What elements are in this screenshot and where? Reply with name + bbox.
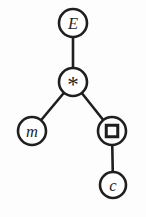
node-c-label: c bbox=[109, 176, 117, 195]
node-star-label: * bbox=[67, 72, 79, 97]
node-box bbox=[98, 117, 126, 145]
figure: E*mc bbox=[0, 0, 146, 217]
node-E: E bbox=[59, 9, 87, 37]
node-E-label: E bbox=[67, 14, 78, 33]
node-box-circle bbox=[98, 117, 126, 145]
node-m: m bbox=[18, 117, 46, 145]
node-star: * bbox=[59, 68, 87, 97]
node-c: c bbox=[100, 172, 126, 198]
node-m-label: m bbox=[26, 122, 38, 141]
tree-diagram-svg: E*mc bbox=[0, 0, 146, 217]
